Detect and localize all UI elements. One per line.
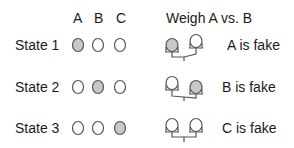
state-3-balance-scale-icon [165, 119, 203, 143]
coin-a-icon [73, 122, 84, 135]
state-1-balance-scale-icon [165, 35, 203, 62]
state-2-balance-scale-icon [165, 77, 203, 102]
state-2-coins [73, 81, 126, 94]
coin-c-icon [115, 39, 126, 52]
coin-b-icon [93, 122, 104, 135]
coin-a-icon [73, 81, 84, 94]
state-3-coins [73, 122, 126, 135]
diagram-shapes [0, 0, 294, 148]
coin-b-icon [93, 39, 104, 52]
coin-a-fake-icon [73, 39, 84, 52]
coin-c-icon [115, 81, 126, 94]
coin-c-fake-icon [115, 122, 126, 135]
coin-b-fake-icon [93, 81, 104, 94]
state-1-coins [73, 39, 126, 52]
